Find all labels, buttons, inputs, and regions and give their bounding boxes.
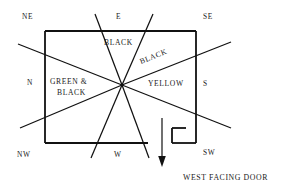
compass-label-s: S [203, 79, 208, 88]
zone-label-green-black-line2: BLACK [57, 88, 86, 97]
ray-w-sw [122, 85, 149, 158]
ray-e [95, 14, 122, 85]
compass-label-w: W [114, 150, 122, 159]
compass-label-nw: NW [17, 150, 31, 159]
zone-label-green-black-line1: GREEN & [50, 77, 87, 86]
door-direction-arrow [158, 118, 166, 167]
caption-west-facing-door: WEST FACING DOOR [183, 173, 268, 182]
ray-sw [122, 85, 231, 128]
direction-rays [18, 14, 231, 158]
zone-label-black-top: BLACK [104, 38, 133, 47]
compass-label-n: N [27, 78, 33, 87]
vastu-diagram: NE E SE N S NW W SW BLACK BLACK GREEN & … [0, 0, 281, 187]
zone-label-black-diagonal: BLACK [138, 47, 168, 66]
diagram-canvas: NE E SE N S NW W SW BLACK BLACK GREEN & … [0, 0, 281, 187]
zone-label-yellow: YELLOW [148, 79, 184, 88]
compass-label-e: E [116, 12, 121, 21]
compass-label-sw: SW [203, 148, 215, 157]
compass-label-ne: NE [22, 12, 33, 21]
compass-label-se: SE [203, 12, 213, 21]
arrow-head-icon [158, 156, 166, 167]
